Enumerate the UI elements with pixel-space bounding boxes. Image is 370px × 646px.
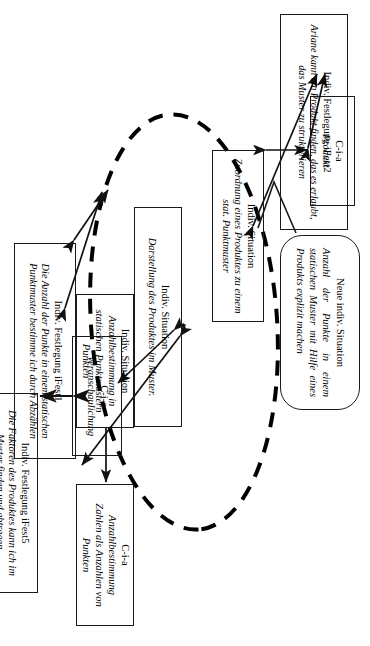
- node-ifest1-title: Indiv. Festlegung iFest1: [51, 300, 64, 401]
- node-situation-zuordnung[interactable]: Indiv. Situation Zuordnung eines Produkt…: [212, 150, 264, 322]
- diagram-canvas-rotator: Indiv. Festlegung iFest2 Ariane kann ein…: [0, 0, 370, 646]
- node-cia-anzahl-body2: Zahlen als Anzahlen von Punkten: [79, 490, 105, 620]
- node-neue-situation[interactable]: Neue indiv. Situation Anzahl der Punkte …: [280, 235, 360, 410]
- node-neue-situation-title: Neue indiv. Situation: [333, 278, 346, 367]
- node-situation-anzahlbestimmung-box[interactable]: Indiv. Situation Anzahlbestimmung in sta…: [76, 294, 134, 428]
- node-ifest5[interactable]: Indiv. Festlegung iFest5 Die Faktoren de…: [0, 393, 38, 593]
- node-situation-darstellung[interactable]: Indiv. Situation Darstellung des Produkt…: [134, 207, 182, 427]
- node-neue-situation-body: Anzahl der Punkte in einem statischen Mu…: [293, 248, 333, 397]
- diagram-canvas: Indiv. Festlegung iFest2 Ariane kann ein…: [0, 0, 370, 646]
- node-situation-zuordnung-title: Indiv. Situation: [244, 204, 257, 269]
- node-situation-anzahl-body-2: Anzahlbestimmung in statischen Punktmust…: [79, 300, 117, 422]
- node-situation-zuordnung-body: Zuordnung eines Produktes zu einem stat.…: [219, 156, 245, 316]
- node-cia-produkt-body-2: Produkt: [320, 134, 333, 167]
- node-situation-anzahl-title-2: Indiv. Situation: [118, 329, 131, 394]
- arrow-ifest1-situation-anzahl: [74, 190, 108, 240]
- node-situation-darstellung-body: Darstellung des Produktes im Muster.: [145, 238, 158, 397]
- node-cia-anzahl-body: Anzahlbestimmung: [105, 515, 118, 595]
- node-cia-anzahlbestimmung[interactable]: C-i-a Anzahlbestimmung Zahlen als Anzahl…: [76, 484, 134, 626]
- node-ifest5-body: Die Faktoren des Produktes kann ich im M…: [0, 399, 18, 587]
- node-cia-produkt-box[interactable]: C-i-a Produkt: [310, 96, 355, 206]
- node-ifest5-title: Indiv. Festlegung iFest5: [18, 442, 31, 543]
- node-cia-produkt-title-2: C-i-a: [333, 140, 346, 162]
- node-situation-darstellung-title: Indiv. Situation: [158, 285, 171, 350]
- diagram-page: Indiv. Festlegung iFest2 Ariane kann ein…: [0, 0, 370, 646]
- node-cia-anzahl-title: C-i-a: [118, 544, 131, 566]
